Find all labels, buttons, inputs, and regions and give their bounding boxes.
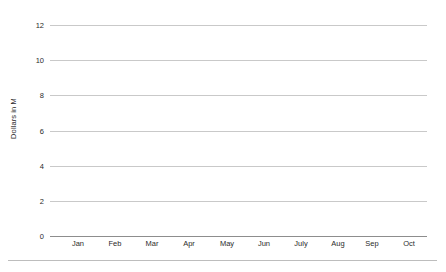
y-tick-label: 0 xyxy=(0,232,44,241)
x-tick-label: Oct xyxy=(403,239,415,248)
y-tick-label: 8 xyxy=(0,91,44,100)
data-series-layer xyxy=(50,25,427,236)
x-tick-label: Apr xyxy=(183,239,195,248)
x-tick-label: Feb xyxy=(109,239,122,248)
x-tick-label: Jun xyxy=(258,239,270,248)
x-tick-label: Jan xyxy=(72,239,84,248)
x-axis-tick-labels: Jan Feb Mar Apr May Jun July Aug Sep Oct xyxy=(50,239,427,253)
x-tick-label: Sep xyxy=(365,239,378,248)
gridline-baseline-0 xyxy=(50,236,427,237)
x-tick-label: May xyxy=(220,239,234,248)
x-tick-label: Aug xyxy=(331,239,344,248)
x-tick-label: July xyxy=(294,239,307,248)
y-tick-label: 2 xyxy=(0,197,44,206)
x-tick-label: Mar xyxy=(146,239,159,248)
y-tick-label: 6 xyxy=(0,127,44,136)
plot-area xyxy=(50,25,427,236)
footer-divider xyxy=(8,260,437,261)
y-tick-label: 4 xyxy=(0,162,44,171)
y-tick-label: 12 xyxy=(0,21,44,30)
y-tick-label: 10 xyxy=(0,56,44,65)
chart-container: Dollars in M 12 10 8 6 4 2 0 Jan Feb Mar… xyxy=(0,0,446,272)
